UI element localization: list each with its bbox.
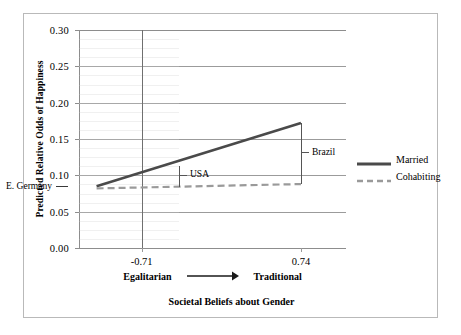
annotation-label: E. Germany: [6, 181, 52, 191]
legend-item-cohabiting: Cohabiting: [357, 168, 440, 185]
series-lines: [79, 30, 346, 248]
chart-figure: Predicted Relative Odds of Happiness 0.0…: [0, 0, 461, 335]
annotation-pointer: [179, 175, 187, 176]
legend-key-cohabiting: [357, 172, 391, 182]
x-direction-left-label: Egalitarian: [123, 271, 171, 282]
y-tick-label: 0.15: [50, 134, 69, 145]
arrow-right-icon: [186, 270, 240, 282]
annotation-text: Brazil: [312, 147, 335, 157]
annotation-pointer: [301, 152, 309, 153]
figure-border: Predicted Relative Odds of Happiness 0.0…: [23, 13, 438, 318]
y-tick-label: 0.20: [50, 97, 69, 108]
x-tick-mark: [142, 248, 143, 252]
annotation-text: USA: [190, 169, 209, 179]
x-direction-right-label: Traditional: [254, 271, 302, 282]
y-tick-label: 0.05: [50, 206, 69, 217]
y-tick-label: 0.10: [50, 170, 69, 181]
legend-item-married: Married: [357, 151, 440, 168]
annotation-pointer: [56, 186, 68, 187]
annotation-e-germany: E. Germany: [6, 181, 68, 191]
y-tick-label: 0.00: [50, 243, 69, 254]
annotation-label-brazil: Brazil: [301, 147, 335, 157]
x-axis-title: Societal Beliefs about Gender: [24, 296, 439, 307]
legend-key-married: [357, 155, 391, 165]
y-tick-label: 0.30: [50, 25, 69, 36]
x-axis-line: [79, 248, 346, 249]
y-tick-label: 0.25: [50, 61, 69, 72]
x-tick-mark: [301, 248, 302, 252]
legend: Married Cohabiting: [357, 151, 440, 185]
legend-label-cohabiting: Cohabiting: [396, 171, 440, 182]
x-tick-label: -0.71: [131, 256, 153, 267]
plot-area: -0.710.74 E. GermanyUSABrazil: [79, 30, 346, 248]
y-axis-title: Predicted Relative Odds of Happiness: [31, 30, 47, 248]
annotation-label-usa: USA: [179, 169, 209, 179]
x-axis-direction: Egalitarian Traditional: [79, 270, 346, 282]
legend-label-married: Married: [396, 154, 428, 165]
series-line-cohabiting: [97, 184, 301, 188]
x-tick-label: 0.74: [292, 256, 310, 267]
